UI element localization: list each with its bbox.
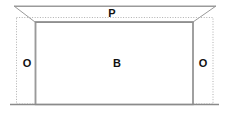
dimension-label-o-right: O [199, 58, 208, 69]
diagram-canvas: P O B O [0, 0, 229, 114]
dimension-label-o-left: O [23, 58, 32, 69]
dimension-label-b: B [113, 58, 121, 69]
dimension-label-p: P [108, 8, 115, 19]
